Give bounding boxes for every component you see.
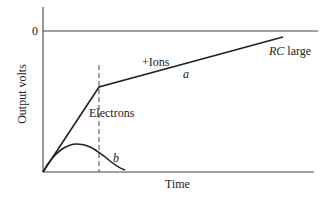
curve-a-label: a <box>183 68 189 80</box>
rc-large-label: RC large <box>269 45 311 57</box>
electrons-label: Electrons <box>89 107 134 119</box>
ions-label: +Ions <box>142 56 169 68</box>
x-axis-label: Time <box>165 178 190 190</box>
pulse-diagram <box>0 0 329 198</box>
y-axis-label: Output volts <box>16 54 28 134</box>
large-text: large <box>284 44 311 58</box>
rc-text: RC <box>269 44 284 58</box>
curve-b-label: b <box>113 152 119 164</box>
zero-tick-label: 0 <box>32 25 38 37</box>
